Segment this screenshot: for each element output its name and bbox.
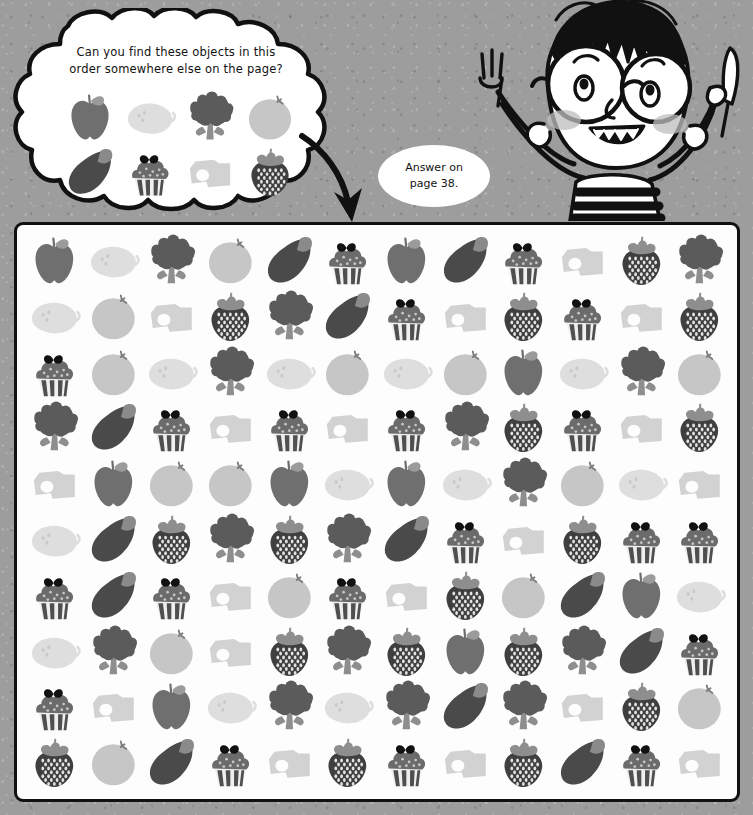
grid-item-broccoli[interactable]	[84, 624, 143, 680]
grid-item-lemon[interactable]	[84, 233, 143, 289]
grid-item-cupcake[interactable]	[142, 400, 201, 456]
grid-item-cheese[interactable]	[612, 400, 671, 456]
grid-item-strawberry[interactable]	[318, 735, 377, 791]
grid-item-apple[interactable]	[436, 624, 495, 680]
grid-item-cupcake[interactable]	[377, 400, 436, 456]
grid-item-lemon[interactable]	[436, 456, 495, 512]
grid-item-strawberry[interactable]	[494, 624, 553, 680]
grid-item-strawberry[interactable]	[260, 624, 319, 680]
grid-item-orange[interactable]	[84, 345, 143, 401]
grid-item-cupcake[interactable]	[318, 233, 377, 289]
grid-item-broccoli[interactable]	[260, 679, 319, 735]
grid-item-broccoli[interactable]	[670, 233, 729, 289]
grid-item-cupcake[interactable]	[25, 568, 84, 624]
grid-item-lemon[interactable]	[142, 345, 201, 401]
grid-item-orange[interactable]	[260, 568, 319, 624]
grid-item-cheese[interactable]	[436, 735, 495, 791]
grid-item-eggplant[interactable]	[553, 735, 612, 791]
grid-item-orange[interactable]	[142, 456, 201, 512]
grid-item-cheese[interactable]	[260, 735, 319, 791]
grid-item-broccoli[interactable]	[436, 400, 495, 456]
grid-item-strawberry[interactable]	[377, 624, 436, 680]
grid-item-cheese[interactable]	[201, 568, 260, 624]
grid-item-cheese[interactable]	[318, 400, 377, 456]
grid-item-lemon[interactable]	[201, 679, 260, 735]
grid-item-broccoli[interactable]	[318, 624, 377, 680]
grid-item-lemon[interactable]	[553, 345, 612, 401]
grid-item-strawberry[interactable]	[670, 400, 729, 456]
grid-item-orange[interactable]	[553, 456, 612, 512]
grid-item-cupcake[interactable]	[612, 512, 671, 568]
grid-item-cheese[interactable]	[201, 400, 260, 456]
grid-item-lemon[interactable]	[260, 345, 319, 401]
grid-item-eggplant[interactable]	[377, 512, 436, 568]
grid-item-strawberry[interactable]	[260, 512, 319, 568]
grid-item-orange[interactable]	[84, 735, 143, 791]
grid-item-cupcake[interactable]	[142, 568, 201, 624]
grid-item-cupcake[interactable]	[25, 345, 84, 401]
grid-item-broccoli[interactable]	[318, 512, 377, 568]
grid-item-cheese[interactable]	[553, 233, 612, 289]
grid-item-strawberry[interactable]	[436, 568, 495, 624]
grid-item-eggplant[interactable]	[84, 568, 143, 624]
grid-item-broccoli[interactable]	[494, 456, 553, 512]
grid-item-eggplant[interactable]	[436, 679, 495, 735]
grid-item-strawberry[interactable]	[494, 735, 553, 791]
grid-item-strawberry[interactable]	[25, 735, 84, 791]
grid-item-cupcake[interactable]	[377, 735, 436, 791]
grid-item-lemon[interactable]	[377, 345, 436, 401]
grid-item-apple[interactable]	[377, 456, 436, 512]
grid-item-cupcake[interactable]	[553, 400, 612, 456]
grid-item-apple[interactable]	[260, 456, 319, 512]
grid-item-cupcake[interactable]	[494, 233, 553, 289]
grid-item-cheese[interactable]	[436, 289, 495, 345]
grid-item-cheese[interactable]	[553, 679, 612, 735]
grid-item-broccoli[interactable]	[201, 345, 260, 401]
grid-item-cheese[interactable]	[670, 735, 729, 791]
grid-item-cupcake[interactable]	[670, 624, 729, 680]
grid-item-cupcake[interactable]	[318, 568, 377, 624]
grid-item-lemon[interactable]	[25, 624, 84, 680]
grid-item-cheese[interactable]	[142, 289, 201, 345]
grid-item-eggplant[interactable]	[612, 624, 671, 680]
grid-item-cupcake[interactable]	[553, 289, 612, 345]
grid-item-cupcake[interactable]	[260, 400, 319, 456]
grid-item-orange[interactable]	[318, 345, 377, 401]
grid-item-eggplant[interactable]	[142, 735, 201, 791]
grid-item-strawberry[interactable]	[670, 289, 729, 345]
grid-item-broccoli[interactable]	[553, 624, 612, 680]
grid-item-broccoli[interactable]	[142, 233, 201, 289]
grid-item-strawberry[interactable]	[142, 512, 201, 568]
grid-item-apple[interactable]	[142, 679, 201, 735]
grid-item-broccoli[interactable]	[201, 512, 260, 568]
grid-item-eggplant[interactable]	[260, 233, 319, 289]
grid-item-orange[interactable]	[494, 568, 553, 624]
grid-item-eggplant[interactable]	[553, 568, 612, 624]
grid-item-strawberry[interactable]	[553, 512, 612, 568]
grid-item-cheese[interactable]	[201, 624, 260, 680]
grid-item-cheese[interactable]	[612, 289, 671, 345]
grid-item-cheese[interactable]	[25, 456, 84, 512]
grid-item-cupcake[interactable]	[377, 289, 436, 345]
grid-item-broccoli[interactable]	[377, 679, 436, 735]
grid-item-apple[interactable]	[377, 233, 436, 289]
grid-item-cupcake[interactable]	[25, 679, 84, 735]
grid-item-lemon[interactable]	[670, 568, 729, 624]
grid-item-eggplant[interactable]	[84, 512, 143, 568]
grid-item-apple[interactable]	[494, 345, 553, 401]
grid-item-cheese[interactable]	[377, 568, 436, 624]
grid-item-cupcake[interactable]	[670, 512, 729, 568]
grid-item-lemon[interactable]	[318, 456, 377, 512]
grid-item-cupcake[interactable]	[201, 735, 260, 791]
grid-item-broccoli[interactable]	[612, 345, 671, 401]
grid-item-cupcake[interactable]	[436, 512, 495, 568]
grid-item-orange[interactable]	[436, 345, 495, 401]
grid-item-strawberry[interactable]	[494, 400, 553, 456]
grid-item-eggplant[interactable]	[318, 289, 377, 345]
grid-item-orange[interactable]	[84, 289, 143, 345]
grid-item-eggplant[interactable]	[84, 400, 143, 456]
grid-item-broccoli[interactable]	[25, 400, 84, 456]
grid-item-broccoli[interactable]	[260, 289, 319, 345]
grid-item-orange[interactable]	[201, 233, 260, 289]
grid-item-lemon[interactable]	[25, 512, 84, 568]
